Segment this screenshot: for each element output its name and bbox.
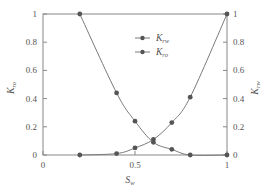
data-point-marker-icon [225,153,230,158]
legend-item-kro: Kro [135,47,169,58]
y-right-tick-label: 0.8 [233,37,245,47]
y-right-tick-label: 0.6 [233,65,245,75]
x-tick-label: 0.5 [129,160,141,170]
series-krw [77,12,229,158]
y-left-tick-label: 1 [33,9,38,19]
y-right-tick-label: 0.2 [233,122,244,132]
y-left-tick-label: 0.6 [26,65,38,75]
series-kro [77,12,229,158]
data-point-marker-icon [77,153,82,158]
data-point-marker-icon [77,12,82,17]
y-left-tick-label: 0.4 [26,94,38,104]
y-right-tick-label: 0.4 [233,94,245,104]
data-series [77,12,229,158]
legend: Krw Kro [135,33,170,58]
x-tick-label: 0 [41,160,46,170]
x-tick-label: 1 [225,160,230,170]
y-right-tick-label: 1 [233,9,238,19]
legend-marker-kro-icon [140,50,144,54]
svg-text:Kro: Kro [155,47,169,58]
data-point-marker-icon [169,120,174,125]
data-point-marker-icon [188,95,193,100]
y-left-tick-label: 0.8 [26,37,38,47]
data-point-marker-icon [114,91,119,96]
y-left-tick-label: 0 [33,150,38,160]
data-point-marker-icon [188,153,193,158]
y-left-tick-label: 0.2 [26,122,37,132]
data-point-marker-icon [151,140,156,145]
data-point-marker-icon [133,146,138,151]
data-point-marker-icon [225,12,230,17]
legend-marker-krw-icon [140,36,144,40]
data-point-marker-icon [169,147,174,152]
legend-item-krw: Krw [135,33,170,44]
x-axis-label: Sw [125,174,135,186]
data-point-marker-icon [133,119,138,124]
svg-text:Krw: Krw [155,33,170,44]
plot-frame [43,14,227,155]
y-axis-left-label: Kro [5,81,17,95]
y-right-tick-label: 0 [233,150,238,160]
y-axis-right-label: Krw [249,81,261,96]
data-point-marker-icon [114,151,119,156]
relative-permeability-chart: 000.20.20.40.40.60.60.80.81100.51 Sw Kro… [0,0,266,193]
